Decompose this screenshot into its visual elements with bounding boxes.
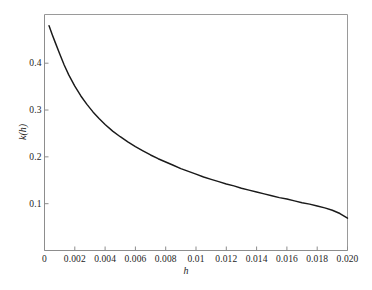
plot-canvas <box>0 0 372 290</box>
x-tick-label: 0.020 <box>337 254 359 264</box>
x-tick-label: 0.008 <box>155 254 177 264</box>
x-tick-label: 0.012 <box>215 254 237 264</box>
data-series-group <box>49 26 347 218</box>
chart-figure: 00.0020.0040.0060.0080.010.0120.0140.016… <box>0 0 372 290</box>
y-tick-label: 0.4 <box>23 58 42 68</box>
x-tick-label: 0.016 <box>276 254 298 264</box>
y-tick-label: 0.1 <box>23 199 42 209</box>
y-tick-label: 0.2 <box>23 152 42 162</box>
x-tick-label: 0.01 <box>187 254 204 264</box>
x-tick-label: 0.018 <box>306 254 328 264</box>
x-tick-label: 0.006 <box>124 254 146 264</box>
y-axis-title: k(h) <box>17 124 28 140</box>
x-axis-ticks <box>45 247 348 251</box>
axes-frame <box>45 15 348 251</box>
y-axis-ticks <box>45 63 49 203</box>
x-tick-label: 0.004 <box>94 254 116 264</box>
series-line-k-of-h <box>49 26 347 218</box>
x-tick-label: 0.002 <box>64 254 86 264</box>
x-tick-label: 0.014 <box>246 254 268 264</box>
x-tick-label: 0 <box>42 254 47 264</box>
y-tick-label: 0.3 <box>23 105 42 115</box>
x-axis-title: h <box>184 265 189 276</box>
